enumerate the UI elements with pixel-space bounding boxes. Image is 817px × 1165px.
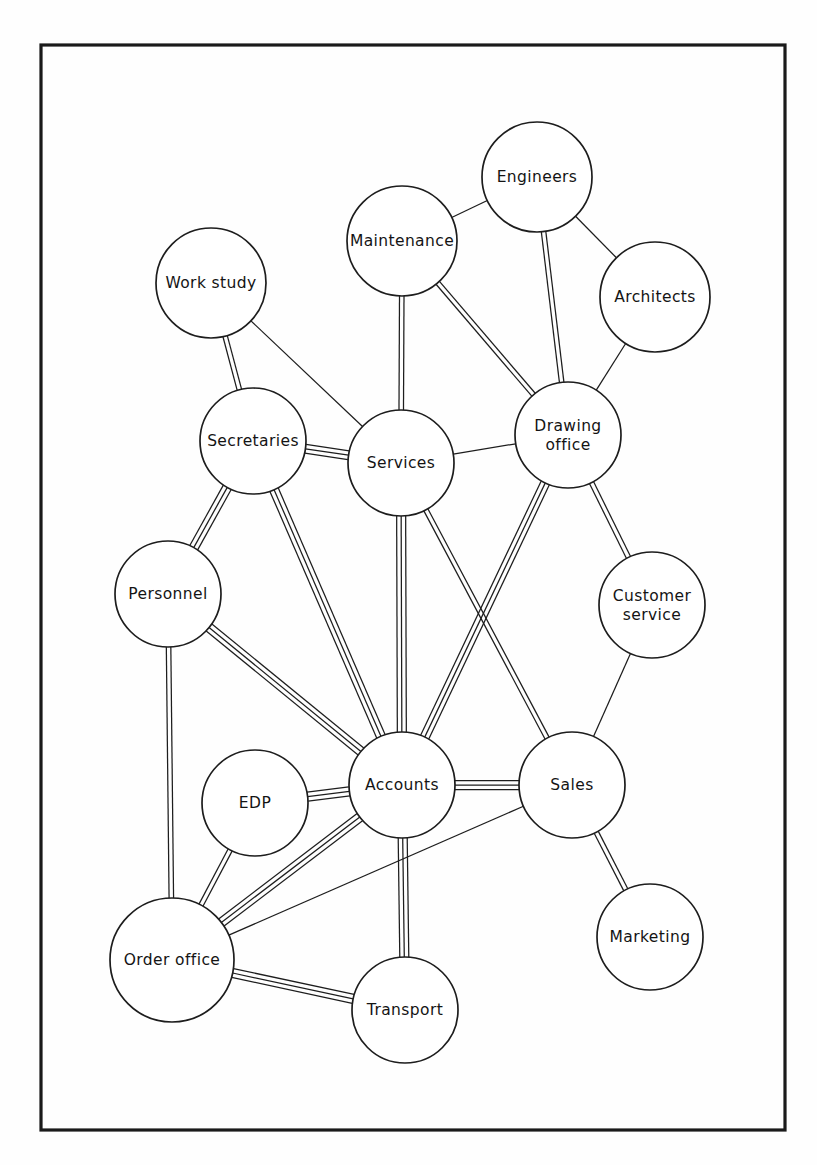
edge-stroke — [594, 482, 631, 557]
edge-stroke — [436, 284, 532, 396]
edge-stroke — [576, 216, 617, 258]
edge-stroke — [401, 516, 402, 732]
node-sales[interactable]: Sales — [519, 732, 625, 838]
edge-stroke — [594, 833, 624, 891]
node-label-sales: Sales — [550, 776, 593, 794]
network-diagram: Work studyMaintenanceEngineersArchitects… — [0, 0, 817, 1165]
edge-stroke — [198, 490, 232, 550]
edge-stroke — [206, 631, 358, 755]
edge-stroke — [439, 281, 535, 393]
edge-stroke — [308, 791, 350, 796]
node-architects[interactable]: Architects — [600, 242, 710, 352]
edge-stroke — [233, 973, 354, 999]
edge-stroke — [190, 485, 224, 545]
node-personnel[interactable]: Personnel — [115, 541, 221, 647]
edge-stroke — [171, 647, 174, 898]
edge-stroke — [199, 849, 228, 904]
edge-work-study-to-secretaries — [223, 336, 242, 391]
edge-edp-to-order-office — [199, 849, 232, 906]
node-secretaries[interactable]: Secretaries — [200, 388, 306, 494]
node-services[interactable]: Services — [348, 410, 454, 516]
edge-stroke — [403, 838, 405, 957]
edge-stroke — [403, 296, 404, 410]
node-label-accounts: Accounts — [365, 776, 439, 794]
edge-customer-service-to-sales — [594, 653, 631, 736]
node-transport[interactable]: Transport — [352, 957, 458, 1063]
edge-secretaries-to-personnel — [190, 485, 231, 550]
node-drawing-office[interactable]: Drawingoffice — [515, 382, 621, 488]
node-label-order-office: Order office — [124, 951, 221, 969]
edge-stroke — [308, 796, 350, 801]
node-label-maintenance: Maintenance — [350, 232, 454, 250]
edge-maintenance-to-drawing-office — [436, 281, 535, 396]
edge-secretaries-to-services — [305, 444, 349, 459]
node-label-services: Services — [367, 454, 436, 472]
node-maintenance[interactable]: Maintenance — [347, 186, 457, 296]
edge-stroke — [596, 344, 625, 391]
edge-stroke — [453, 444, 515, 454]
edge-stroke — [425, 483, 546, 737]
edge-stroke — [203, 851, 232, 906]
edge-maintenance-to-services — [399, 296, 404, 410]
edge-sales-to-marketing — [594, 831, 628, 891]
edge-maintenance-to-engineers — [452, 201, 488, 218]
edge-stroke — [589, 484, 626, 559]
edge-engineers-to-drawing-office — [541, 231, 564, 382]
node-engineers[interactable]: Engineers — [482, 122, 592, 232]
node-label-secretaries: Secretaries — [207, 432, 299, 450]
edge-stroke — [406, 516, 407, 732]
node-label-customer-service: Customerservice — [613, 586, 692, 623]
edge-services-to-drawing-office — [453, 444, 515, 454]
node-marketing[interactable]: Marketing — [597, 884, 703, 990]
edge-stroke — [398, 838, 400, 957]
edge-secretaries-to-accounts — [270, 488, 385, 738]
edge-architects-to-drawing-office — [596, 344, 625, 391]
edge-order-office-to-transport — [232, 969, 354, 1004]
edge-stroke — [541, 232, 559, 383]
edge-services-to-sales — [424, 509, 549, 740]
node-label-architects: Architects — [614, 288, 696, 306]
node-order-office[interactable]: Order office — [110, 898, 234, 1022]
edge-stroke — [424, 511, 545, 739]
node-accounts[interactable]: Accounts — [349, 732, 455, 838]
node-work-study[interactable]: Work study — [156, 228, 266, 338]
edge-stroke — [166, 647, 169, 898]
node-label-engineers: Engineers — [497, 168, 578, 186]
edge-stroke — [399, 296, 400, 410]
edge-stroke — [546, 231, 564, 382]
node-label-edp: EDP — [239, 794, 271, 812]
edge-stroke — [209, 628, 361, 752]
edge-stroke — [194, 487, 228, 547]
node-label-marketing: Marketing — [610, 928, 691, 946]
edge-personnel-to-order-office — [166, 647, 173, 898]
edge-stroke — [307, 787, 349, 792]
edge-services-to-accounts — [397, 516, 407, 732]
edge-stroke — [452, 201, 488, 218]
node-label-work-study: Work study — [165, 274, 256, 292]
edge-stroke — [407, 838, 409, 957]
node-customer-service[interactable]: Customerservice — [599, 552, 705, 658]
edge-accounts-to-sales — [455, 781, 519, 790]
node-label-transport: Transport — [366, 1001, 443, 1019]
edge-accounts-to-transport — [398, 838, 409, 957]
node-label-personnel: Personnel — [128, 585, 207, 603]
edge-stroke — [594, 653, 631, 736]
network-graph-canvas: Work studyMaintenanceEngineersArchitects… — [0, 0, 817, 1165]
edge-stroke — [397, 516, 398, 732]
edge-stroke — [429, 485, 550, 739]
node-edp[interactable]: EDP — [202, 750, 308, 856]
nodes-layer: Work studyMaintenanceEngineersArchitects… — [110, 122, 710, 1063]
edge-stroke — [270, 491, 377, 738]
edge-engineers-to-architects — [576, 216, 617, 258]
edge-stroke — [598, 831, 628, 889]
edge-drawing-office-to-customer-service — [589, 482, 630, 559]
edge-accounts-to-edp — [307, 787, 350, 801]
